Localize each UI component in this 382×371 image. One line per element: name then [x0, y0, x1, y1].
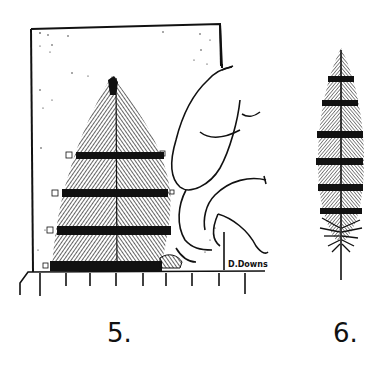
illustration: D.Downs 5. 6. — [0, 0, 382, 371]
artist-signature: D.Downs — [228, 261, 268, 269]
hand — [160, 66, 268, 270]
ruler — [20, 271, 265, 296]
feather-6 — [316, 48, 364, 280]
figure-label-5: 5. — [107, 320, 132, 346]
feather-5 — [50, 76, 171, 271]
figure-label-6: 6. — [333, 320, 358, 346]
drawing-canvas — [0, 0, 382, 371]
